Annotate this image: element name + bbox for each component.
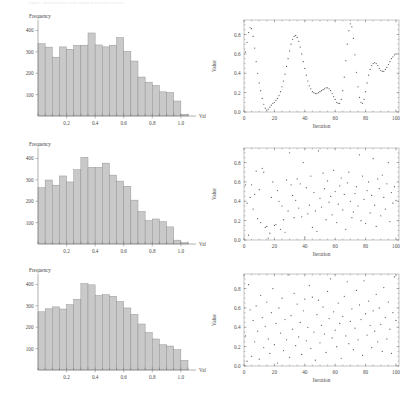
- data-point: [278, 95, 279, 96]
- data-point: [292, 195, 293, 196]
- data-point: [392, 312, 393, 313]
- x-tick-label: 0.2: [63, 374, 70, 380]
- data-point: [338, 103, 339, 104]
- data-point: [339, 323, 340, 324]
- scatter-panel-1: 0204060801000.00.20.40.60.8IterationValu…: [206, 8, 412, 136]
- data-point: [252, 208, 253, 209]
- data-point: [344, 194, 345, 195]
- data-point: [339, 185, 340, 186]
- data-point: [257, 331, 258, 332]
- data-point: [246, 42, 247, 43]
- y-axis-label: Frequency: [29, 13, 51, 19]
- data-point: [278, 307, 279, 308]
- histogram-bar: [52, 307, 59, 370]
- histogram-bar: [124, 51, 131, 116]
- data-point: [373, 63, 374, 64]
- data-point: [359, 304, 360, 305]
- data-point: [306, 340, 307, 341]
- data-point: [265, 326, 266, 327]
- data-point: [380, 70, 381, 71]
- data-point: [347, 44, 348, 45]
- y-axis-label: Frequency: [29, 267, 51, 273]
- data-point: [333, 311, 334, 312]
- six-panel-figure: 0.20.40.60.81.0100200300400ValueFrequenc…: [0, 0, 412, 404]
- data-point: [363, 280, 364, 281]
- data-point: [386, 183, 387, 184]
- data-point: [294, 293, 295, 294]
- histogram-bar: [167, 346, 174, 370]
- data-point: [350, 201, 351, 202]
- histogram-bar: [59, 309, 66, 370]
- histogram-bar: [138, 77, 145, 116]
- histogram-bar: [131, 61, 138, 116]
- data-point: [383, 197, 384, 198]
- data-point: [256, 171, 257, 172]
- y-axis-label: Value: [211, 313, 217, 326]
- x-axis-label: Value: [199, 241, 206, 247]
- data-point: [328, 88, 329, 89]
- data-point: [254, 47, 255, 48]
- x-tick-label: 0.4: [92, 374, 99, 380]
- y-tick-label: 300: [26, 177, 34, 183]
- data-point: [325, 87, 326, 88]
- data-point: [332, 93, 333, 94]
- data-point: [245, 184, 246, 185]
- point-group: [245, 23, 397, 110]
- data-point: [348, 343, 349, 344]
- data-point: [362, 175, 363, 176]
- data-point: [318, 92, 319, 93]
- data-point: [315, 210, 316, 211]
- x-tick-label: 60: [333, 115, 339, 121]
- data-point: [303, 310, 304, 311]
- x-tick-label: 80: [363, 115, 369, 121]
- histogram-bar: [124, 186, 131, 244]
- y-tick-label: 0.8: [234, 160, 241, 166]
- data-point: [309, 205, 310, 206]
- data-point: [363, 99, 364, 100]
- data-point: [251, 356, 252, 357]
- y-tick-label: 100: [26, 92, 34, 98]
- data-point: [272, 181, 273, 182]
- data-point: [256, 61, 257, 62]
- data-point: [322, 173, 323, 174]
- data-point: [374, 205, 375, 206]
- data-point: [359, 154, 360, 155]
- data-point: [368, 75, 369, 76]
- histogram-bar: [152, 85, 159, 116]
- data-point: [365, 91, 366, 92]
- data-point: [344, 77, 345, 78]
- data-point: [395, 53, 396, 54]
- x-tick-label: 0: [243, 369, 246, 375]
- y-axis-label: Frequency: [29, 141, 51, 147]
- data-point: [338, 302, 339, 303]
- data-point: [297, 303, 298, 304]
- data-point: [280, 332, 281, 333]
- data-point: [322, 306, 323, 307]
- x-tick-label: 100: [392, 369, 400, 375]
- data-point: [283, 350, 284, 351]
- data-point: [246, 361, 247, 362]
- histogram-bar: [59, 47, 66, 116]
- data-point: [262, 98, 263, 99]
- histogram-bar: [159, 345, 166, 370]
- y-tick-label: 0.6: [234, 305, 241, 311]
- data-point: [356, 72, 357, 73]
- y-axis-label: Value: [211, 59, 217, 72]
- data-point: [262, 168, 263, 169]
- histogram-bar: [102, 295, 109, 370]
- data-point: [254, 341, 255, 342]
- histogram-panel-1: 0.20.40.60.81.0100200300400ValueFrequenc…: [0, 8, 206, 136]
- data-point: [294, 36, 295, 37]
- x-tick-label: 0: [243, 115, 246, 121]
- histogram-bar: [145, 220, 152, 244]
- x-tick-label: 80: [363, 369, 369, 375]
- histogram-bar: [45, 47, 52, 116]
- data-point: [292, 329, 293, 330]
- data-point: [327, 180, 328, 181]
- data-point: [322, 89, 323, 90]
- data-point: [304, 299, 305, 300]
- data-point: [254, 194, 255, 195]
- data-point: [289, 152, 290, 153]
- data-point: [310, 175, 311, 176]
- histogram-bar: [45, 180, 52, 244]
